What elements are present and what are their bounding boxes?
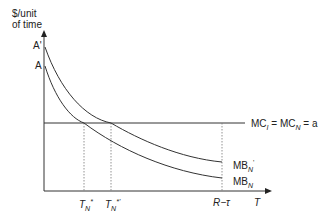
- x-axis-arrow-icon: [265, 188, 272, 194]
- a-prime-label: A': [33, 40, 42, 51]
- t-star-tick-label: TN*: [79, 196, 93, 214]
- mb-prime-curve: [45, 47, 222, 162]
- y-axis-arrow-icon: [41, 30, 47, 37]
- mb-label: MBN: [233, 176, 253, 191]
- r-tau-tick-label: R−τ: [213, 197, 230, 208]
- y-axis-label-line1: $/unit: [12, 8, 36, 19]
- a-label: A: [35, 60, 42, 71]
- mb-curve: [45, 66, 222, 178]
- y-axis-label-line2: of time: [12, 19, 42, 30]
- mb-prime-label: MBN': [233, 157, 254, 175]
- x-axis-label: T: [254, 197, 260, 208]
- t-star-prime-tick-label: TN*': [105, 196, 120, 214]
- chart-canvas: [0, 0, 329, 221]
- mc-label: MCI = MCN = a: [251, 118, 318, 133]
